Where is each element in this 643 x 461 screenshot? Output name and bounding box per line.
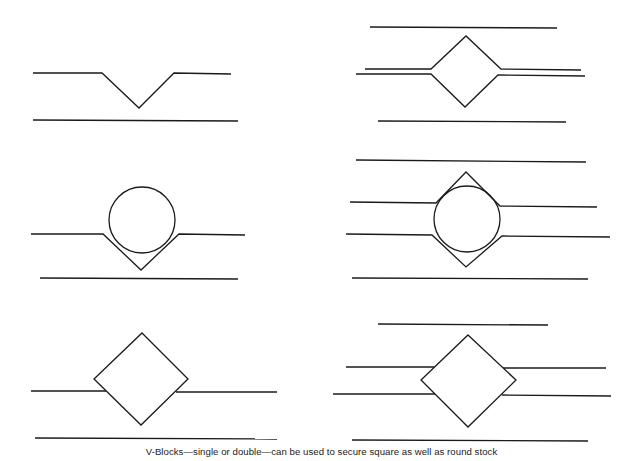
panel-double-vblock-round [346, 160, 610, 279]
panel-single-vblock-square [31, 333, 277, 439]
panel-double-vblock-square-flat [333, 324, 611, 441]
panel-single-vblock-round [31, 187, 245, 279]
figure-caption: V-Blocks—single or double—can be used to… [0, 446, 643, 457]
vblock-base-line [33, 120, 238, 121]
panel-double-vblock-square [356, 27, 585, 122]
upper-block-top-line [378, 324, 548, 325]
round-stock-circle [109, 187, 175, 253]
lower-block-line-right [502, 395, 611, 396]
lower-block-base-line [352, 278, 588, 279]
square-stock-diamond [421, 335, 516, 427]
vblock-top-profile [31, 234, 245, 270]
square-stock-diamond [94, 333, 188, 425]
vblock-base-line [40, 278, 238, 279]
upper-block-v-profile [365, 36, 581, 70]
v-block-diagram [0, 0, 643, 461]
upper-block-top-line [370, 27, 557, 28]
upper-block-v-profile [350, 172, 597, 207]
lower-block-base-line [378, 121, 566, 122]
vblock-base-line [35, 438, 277, 439]
vblock-top-profile [33, 73, 231, 108]
lower-block-v-profile [356, 74, 585, 107]
upper-block-top-line [356, 160, 586, 162]
panel-single-vblock-empty [33, 73, 238, 121]
round-stock-circle [434, 186, 500, 252]
lower-block-base-line [352, 440, 588, 441]
